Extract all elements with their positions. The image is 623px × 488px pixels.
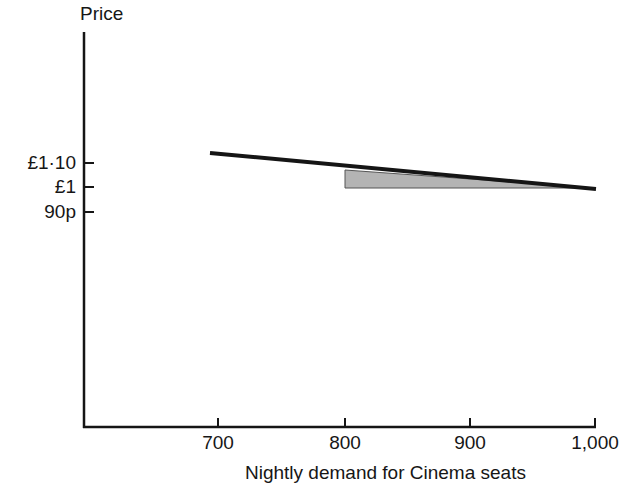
x-tick-label-900: 900	[435, 432, 505, 454]
x-tick-label-700: 700	[183, 432, 253, 454]
y-tick-label-100: £1	[6, 176, 76, 198]
y-tick-label-110: £1·10	[6, 152, 76, 174]
x-tick-label-1000: 1,000	[560, 432, 623, 454]
y-tick-label-90p: 90p	[6, 201, 76, 223]
x-axis-title: Nightly demand for Cinema seats	[245, 462, 526, 484]
x-tick-label-800: 800	[310, 432, 380, 454]
y-axis-title: Price	[80, 3, 123, 25]
